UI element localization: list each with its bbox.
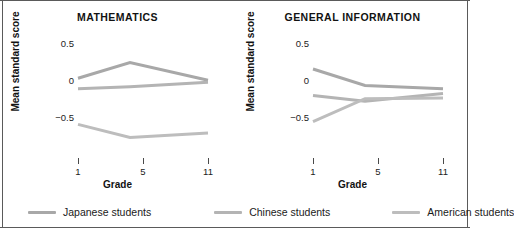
x-tick-label: 11 (193, 166, 223, 177)
line-series (78, 82, 208, 89)
plot-area-general-information (313, 44, 443, 156)
legend-item-japanese: Japanese students (28, 206, 151, 218)
y-tick-label: −0.5 (275, 112, 309, 123)
line-series (313, 98, 443, 122)
x-tick-label: 11 (428, 166, 458, 177)
y-axis-ticks-left: 0.5 0 −0.5 (34, 44, 74, 156)
y-axis-label-right: Mean standard score (245, 3, 256, 121)
legend-label: American students (427, 206, 514, 218)
line-series (78, 62, 208, 80)
frame-bottom-rule (0, 227, 470, 228)
x-tick-label: 1 (298, 166, 328, 177)
x-tick-mark (143, 158, 144, 164)
x-axis-label-right: Grade (235, 179, 470, 190)
y-axis-label-left: Mean standard score (10, 3, 21, 121)
y-tick-label: −0.5 (40, 112, 74, 123)
x-tick-label: 5 (363, 166, 393, 177)
y-tick-label: 0.5 (275, 38, 309, 49)
chart-title-mathematics: MATHEMATICS (0, 11, 235, 23)
x-axis-label-left: Grade (0, 179, 235, 190)
x-tick-mark (378, 158, 379, 164)
legend-label: Chinese students (249, 206, 330, 218)
legend-item-american: American students (392, 206, 514, 218)
legend-swatch-icon (214, 211, 242, 214)
y-axis-ticks-right: 0.5 0 −0.5 (269, 44, 309, 156)
legend-swatch-icon (392, 211, 420, 214)
x-tick-label: 5 (128, 166, 158, 177)
x-tick-mark (208, 158, 209, 164)
chart-panel-general-information: GENERAL INFORMATION Mean standard score … (235, 0, 470, 196)
x-tick-label: 1 (63, 166, 93, 177)
legend-swatch-icon (28, 211, 56, 214)
y-tick-label: 0 (275, 75, 309, 86)
chart-legend: Japanese students Chinese students Ameri… (0, 203, 470, 221)
y-tick-label: 0 (40, 75, 74, 86)
chart-panel-mathematics: MATHEMATICS Mean standard score 0.5 0 −0… (0, 0, 235, 196)
legend-label: Japanese students (63, 206, 151, 218)
x-tick-mark (313, 158, 314, 164)
lines-svg-general-information (313, 44, 443, 156)
x-tick-mark (443, 158, 444, 164)
lines-svg-mathematics (78, 44, 208, 156)
line-series (78, 124, 208, 137)
legend-item-chinese: Chinese students (214, 206, 330, 218)
plot-area-mathematics (78, 44, 208, 156)
x-tick-mark (78, 158, 79, 164)
chart-title-general-information: GENERAL INFORMATION (235, 11, 470, 23)
line-series (313, 69, 443, 89)
y-tick-label: 0.5 (40, 38, 74, 49)
